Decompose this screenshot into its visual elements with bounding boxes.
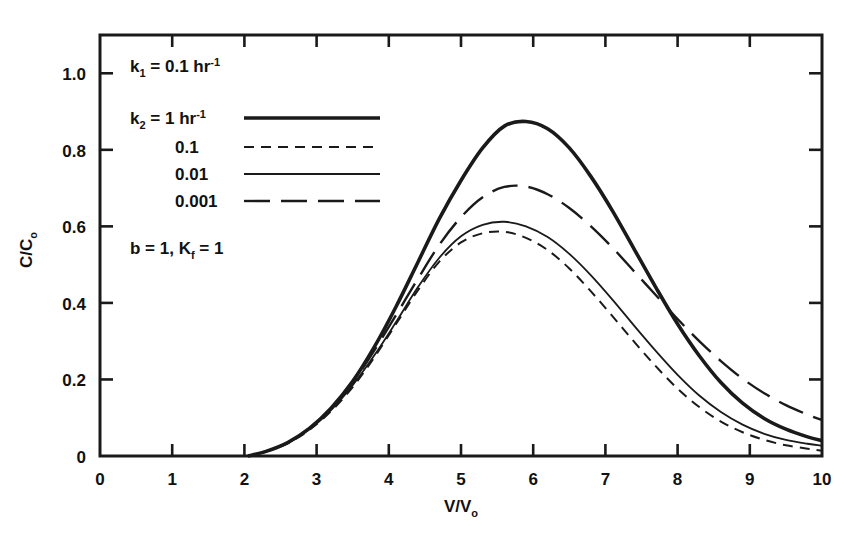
x-tick-label: 6 — [528, 470, 537, 489]
y-tick-label: 0.6 — [62, 218, 86, 237]
annotation-parameters: b = 1, Kf = 1 — [130, 239, 223, 261]
x-tick-label: 9 — [745, 470, 754, 489]
x-tick-label: 4 — [384, 470, 394, 489]
legend-label-1: 0.1 — [175, 138, 199, 157]
concentration-profile-chart: 012345678910 00.20.40.60.81.0 V/Vo C/Co … — [0, 0, 853, 534]
y-tick-label: 0.8 — [62, 142, 86, 161]
x-tick-label: 2 — [240, 470, 249, 489]
x-tick-label: 7 — [601, 470, 610, 489]
y-tick-label: 0.4 — [62, 295, 86, 314]
x-tick-label: 3 — [312, 470, 321, 489]
y-tick-label: 0.2 — [62, 371, 86, 390]
chart-figure: 012345678910 00.20.40.60.81.0 V/Vo C/Co … — [0, 0, 853, 534]
y-tick-label: 1.0 — [62, 65, 86, 84]
legend-label-2: 0.01 — [175, 165, 208, 184]
legend-label-3: 0.001 — [175, 192, 218, 211]
x-tick-label: 0 — [95, 470, 104, 489]
x-tick-label: 10 — [813, 470, 832, 489]
y-tick-label: 0 — [77, 448, 86, 467]
x-tick-label: 1 — [167, 470, 176, 489]
x-tick-label: 8 — [673, 470, 682, 489]
x-tick-label: 5 — [456, 470, 465, 489]
